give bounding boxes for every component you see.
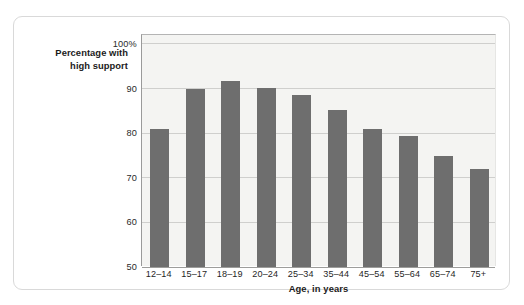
bar xyxy=(434,156,453,267)
x-tick-label: 55–64 xyxy=(394,269,420,279)
bar xyxy=(399,136,418,267)
bar xyxy=(328,110,347,267)
y-tick-label-60: 60 xyxy=(126,217,137,227)
x-tick-label: 45–54 xyxy=(359,269,385,279)
x-tick-label: 20–24 xyxy=(252,269,278,279)
x-tick-label: 25–34 xyxy=(288,269,314,279)
bar xyxy=(292,95,311,267)
x-tick-label: 75+ xyxy=(470,269,486,279)
y-tick-label-100: 100% xyxy=(113,39,137,49)
x-tick-label: 12–14 xyxy=(146,269,172,279)
bar xyxy=(186,89,205,267)
y-tick-label-90: 90 xyxy=(126,84,137,94)
y-tick-label-80: 80 xyxy=(126,128,137,138)
x-axis-title: Age, in years xyxy=(141,283,496,294)
x-tick-label: 18–19 xyxy=(217,269,243,279)
x-tick-label: 65–74 xyxy=(430,269,456,279)
chart-card: Percentage with high support 50607080901… xyxy=(13,16,510,290)
gridline-100 xyxy=(142,43,495,44)
plot-area: 5060708090100% xyxy=(141,34,496,266)
x-tick-label: 35–44 xyxy=(323,269,349,279)
bar xyxy=(257,88,276,267)
x-tick-label: 15–17 xyxy=(181,269,207,279)
y-axis-title-line-2: high support xyxy=(24,60,128,73)
y-tick-label-70: 70 xyxy=(126,173,137,183)
bar xyxy=(470,169,489,267)
y-axis-title: Percentage with high support xyxy=(24,47,128,72)
bar xyxy=(150,129,169,267)
plot-inner: 5060708090100% xyxy=(142,35,495,266)
bar xyxy=(363,129,382,267)
y-tick-label-50: 50 xyxy=(126,262,137,272)
bar xyxy=(221,81,240,267)
